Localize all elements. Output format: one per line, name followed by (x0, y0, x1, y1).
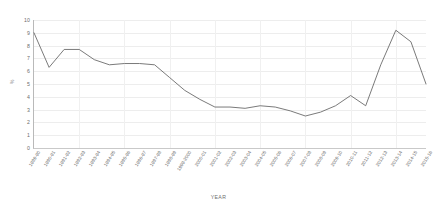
y-tick-label: 2 (27, 119, 30, 125)
x-tick-label: 1989-90 (28, 150, 41, 167)
x-tick-label: 2002-03 (224, 150, 237, 167)
x-tick-label: 2013-14 (390, 150, 403, 167)
x-tick-label: 1990-91 (43, 150, 56, 167)
x-tick-label: 2015-16 (420, 150, 433, 167)
x-tick-label: 1996-97 (133, 150, 146, 167)
y-tick-label: 3 (27, 107, 30, 113)
series-line (34, 20, 426, 148)
x-tick-label: 1999-2000 (176, 150, 192, 172)
y-tick-label: 6 (27, 68, 30, 74)
series-polyline (34, 30, 426, 116)
y-axis-title: % (9, 79, 15, 84)
y-tick-label: 1 (27, 132, 30, 138)
x-tick-label: 2000-01 (194, 150, 207, 167)
x-tick-label: 1994-95 (103, 150, 116, 167)
line-chart-figure: % 012345678910 1989-901990-911991-921992… (0, 0, 437, 212)
plot-area: 012345678910 1989-901990-911991-921992-9… (33, 20, 426, 149)
y-tick-label: 8 (27, 43, 30, 49)
y-tick-label: 7 (27, 55, 30, 61)
x-tick-label: 2001-02 (209, 150, 222, 167)
y-tick-label: 9 (27, 30, 30, 36)
x-tick-label: 2008-09 (314, 150, 327, 167)
x-tick-label: 2004-05 (254, 150, 267, 167)
x-tick-label: 2007-08 (299, 150, 312, 167)
y-tick-label: 5 (27, 81, 30, 87)
x-tick-label: 2014-15 (405, 150, 418, 167)
x-tick-label: 1998-99 (164, 150, 177, 167)
x-tick-label: 1997-98 (148, 150, 161, 167)
x-axis-title: YEAR (0, 194, 437, 200)
y-tick-label: 4 (27, 94, 30, 100)
x-tick-label: 2005-06 (269, 150, 282, 167)
x-tick-label: 1993-94 (88, 150, 101, 167)
x-tick-label: 2011-12 (360, 150, 373, 167)
x-tick-label: 1995-96 (118, 150, 131, 167)
x-tick-label: 1992-93 (73, 150, 86, 167)
y-tick-label: 0 (27, 145, 30, 151)
x-tick-label: 2009-10 (329, 150, 342, 167)
x-tick-label: 2012-13 (375, 150, 388, 167)
y-tick-label: 10 (24, 17, 30, 23)
x-tick-label: 2006-07 (284, 150, 297, 167)
x-tick-label: 2003-04 (239, 150, 252, 167)
x-tick-label: 2010-11 (345, 150, 358, 167)
x-tick-label: 1991-92 (58, 150, 71, 167)
